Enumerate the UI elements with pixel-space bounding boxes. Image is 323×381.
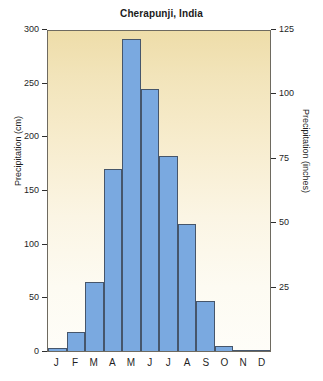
tick-mark <box>271 93 276 94</box>
bar-april <box>104 169 123 351</box>
bar-january <box>48 348 67 351</box>
y-axis-right-tick-label: 25 <box>279 282 289 293</box>
x-axis-label-september: S <box>196 356 215 374</box>
x-axis-label-january: J <box>47 356 66 374</box>
bar-may <box>122 39 141 351</box>
plot-area <box>47 30 271 352</box>
bar-series <box>48 31 270 351</box>
bar-september <box>196 301 215 351</box>
y-axis-left: 300250200150100500 <box>0 30 47 352</box>
x-axis-label-august: A <box>178 356 197 374</box>
bar-cell <box>196 31 215 351</box>
bar-cell <box>141 31 160 351</box>
x-axis-label-december: D <box>252 356 271 374</box>
x-axis-label-march: M <box>84 356 103 374</box>
bar-july <box>159 156 178 351</box>
bar-cell <box>104 31 123 351</box>
y-axis-right-tick-label: 100 <box>279 88 294 99</box>
bar-cell <box>215 31 234 351</box>
bar-november <box>233 350 252 351</box>
x-axis-label-february: F <box>66 356 85 374</box>
y-axis-right: 125100755025 <box>271 30 323 352</box>
x-axis-label-november: N <box>234 356 253 374</box>
bar-cell <box>252 31 271 351</box>
y-axis-left-tick-label: 0 <box>34 346 39 357</box>
bar-cell <box>178 31 197 351</box>
bar-december <box>252 350 271 351</box>
bar-cell <box>233 31 252 351</box>
tick-mark <box>271 29 276 30</box>
tick-mark <box>271 287 276 288</box>
tick-mark <box>271 222 276 223</box>
x-axis-label-april: A <box>103 356 122 374</box>
y-axis-left-tick-label: 200 <box>24 131 39 142</box>
bar-march <box>85 282 104 351</box>
bar-cell <box>48 31 67 351</box>
x-axis-label-october: O <box>215 356 234 374</box>
tick-mark <box>271 158 276 159</box>
bar-june <box>141 89 160 351</box>
y-axis-left-tick-label: 150 <box>24 185 39 196</box>
y-axis-left-tick-label: 50 <box>29 292 39 303</box>
bar-february <box>67 332 86 351</box>
y-axis-right-tick-label: 125 <box>279 24 294 35</box>
x-axis-label-june: J <box>140 356 159 374</box>
page-title: Cherapunji, India <box>0 8 323 19</box>
y-axis-left-tick-label: 250 <box>24 78 39 89</box>
y-axis-right-tick-label: 50 <box>279 217 289 228</box>
y-axis-left-tick-label: 100 <box>24 239 39 250</box>
bar-october <box>215 346 234 351</box>
bar-cell <box>85 31 104 351</box>
x-axis-month-labels: JFMAMJJASOND <box>47 356 271 374</box>
bar-cell <box>67 31 86 351</box>
y-axis-right-tick-label: 75 <box>279 153 289 164</box>
x-axis-label-july: J <box>159 356 178 374</box>
x-axis-label-may: M <box>122 356 141 374</box>
bar-cell <box>122 31 141 351</box>
bar-cell <box>159 31 178 351</box>
bar-august <box>178 224 197 351</box>
climate-bar-chart-figure: Cherapunji, India Precipitation (cm) Pre… <box>0 0 323 381</box>
y-axis-left-tick-label: 300 <box>24 24 39 35</box>
